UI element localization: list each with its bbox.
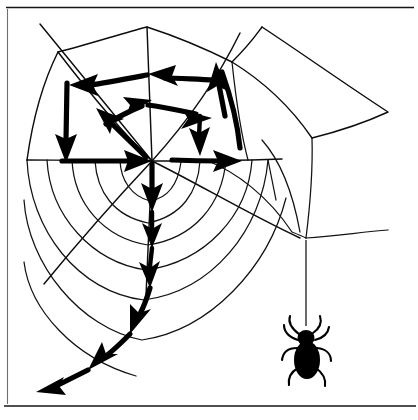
path-segment-east-horizontal (172, 160, 222, 161)
figure-container: Spider web construction path Hand-drawn … (0, 0, 418, 420)
path-segment-descent-3 (150, 248, 152, 268)
spider-abdomen (294, 341, 320, 379)
path-segment-left-vertical (66, 83, 67, 140)
spider-cephalothorax (298, 330, 315, 346)
spider-web-diagram: Spider web construction path Hand-drawn … (0, 0, 418, 420)
